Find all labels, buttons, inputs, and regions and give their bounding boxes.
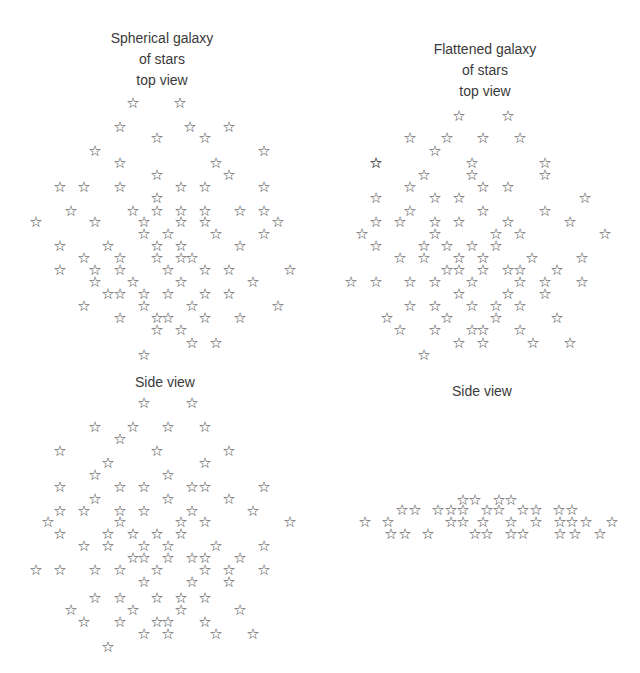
star-icon: ☆ [513,227,528,242]
star-icon: ☆ [88,215,103,230]
star-icon: ☆ [480,527,495,542]
star-icon: ☆ [568,527,583,542]
star-icon: ☆ [137,504,152,519]
star-icon: ☆ [452,109,467,124]
star-icon: ☆ [476,336,491,351]
star-icon: ☆ [403,131,418,146]
star-icon: ☆ [126,420,141,435]
star-field: ☆☆☆☆☆☆☆☆☆☆☆☆☆☆☆☆☆☆☆☆☆☆☆☆☆☆☆☆☆☆☆☆☆☆☆☆☆☆☆☆… [0,0,640,673]
star-icon: ☆ [113,120,128,135]
star-icon: ☆ [29,563,44,578]
star-icon: ☆ [403,180,418,195]
star-icon: ☆ [222,120,237,135]
star-icon: ☆ [526,336,541,351]
star-icon: ☆ [198,287,213,302]
star-icon: ☆ [529,515,544,530]
star-icon: ☆ [150,591,165,606]
star-icon: ☆ [113,563,128,578]
star-icon: ☆ [575,251,590,266]
star-icon: ☆ [88,563,103,578]
star-icon: ☆ [53,444,68,459]
star-icon: ☆ [198,180,213,195]
star-icon: ☆ [489,311,504,326]
star-icon: ☆ [161,468,176,483]
star-icon: ☆ [53,263,68,278]
star-icon: ☆ [173,96,188,111]
star-icon: ☆ [283,515,298,530]
star-icon: ☆ [150,563,165,578]
star-icon: ☆ [198,563,213,578]
star-icon: ☆ [233,603,248,618]
star-icon: ☆ [113,156,128,171]
star-icon: ☆ [465,299,480,314]
star-icon: ☆ [222,444,237,459]
star-icon: ☆ [393,251,408,266]
star-icon: ☆ [174,215,189,230]
star-icon: ☆ [257,480,272,495]
star-icon: ☆ [77,299,92,314]
star-icon: ☆ [53,180,68,195]
star-icon: ☆ [257,563,272,578]
star-icon: ☆ [198,456,213,471]
star-icon: ☆ [185,396,200,411]
star-icon: ☆ [88,468,103,483]
star-icon: ☆ [53,527,68,542]
star-icon: ☆ [88,591,103,606]
star-icon: ☆ [77,180,92,195]
star-icon: ☆ [417,348,432,363]
star-icon: ☆ [358,515,373,530]
star-icon: ☆ [501,180,516,195]
star-icon: ☆ [428,191,443,206]
star-icon: ☆ [283,263,298,278]
star-icon: ☆ [137,480,152,495]
star-icon: ☆ [355,227,370,242]
star-icon: ☆ [421,527,436,542]
star-icon: ☆ [575,275,590,290]
star-icon: ☆ [185,575,200,590]
star-icon: ☆ [598,227,613,242]
star-icon: ☆ [126,603,141,618]
star-icon: ☆ [77,504,92,519]
star-icon: ☆ [185,336,200,351]
star-icon: ☆ [257,227,272,242]
star-icon: ☆ [465,275,480,290]
star-icon: ☆ [53,563,68,578]
star-icon: ☆ [428,323,443,338]
star-icon: ☆ [209,336,224,351]
star-icon: ☆ [150,444,165,459]
star-icon: ☆ [29,215,44,230]
star-icon: ☆ [257,180,272,195]
star-icon: ☆ [198,480,213,495]
star-icon: ☆ [403,275,418,290]
star-icon: ☆ [222,263,237,278]
star-icon: ☆ [489,239,504,254]
star-icon: ☆ [452,215,467,230]
star-icon: ☆ [452,191,467,206]
star-icon: ☆ [113,287,128,302]
star-icon: ☆ [578,191,593,206]
star-icon: ☆ [222,287,237,302]
star-icon: ☆ [137,348,152,363]
star-icon: ☆ [88,144,103,159]
star-icon: ☆ [113,615,128,630]
star-icon: ☆ [246,504,261,519]
star-icon: ☆ [476,204,491,219]
star-icon: ☆ [150,168,165,183]
star-icon: ☆ [233,204,248,219]
star-icon: ☆ [408,503,423,518]
star-icon: ☆ [198,131,213,146]
star-icon: ☆ [452,336,467,351]
star-icon: ☆ [198,591,213,606]
star-icon: ☆ [538,204,553,219]
star-icon: ☆ [113,311,128,326]
star-icon: ☆ [246,627,261,642]
star-icon: ☆ [174,603,189,618]
star-icon: ☆ [77,539,92,554]
star-icon: ☆ [233,239,248,254]
star-icon: ☆ [113,432,128,447]
star-icon: ☆ [257,539,272,554]
star-icon: ☆ [137,575,152,590]
star-icon: ☆ [233,311,248,326]
star-icon: ☆ [393,323,408,338]
star-icon: ☆ [161,492,176,507]
